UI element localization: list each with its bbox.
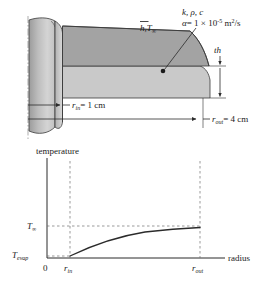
figure-container: h,T∞ k, ρ, c α= 1 × 10-5 m2/s th rin= 1 … bbox=[0, 0, 275, 285]
svg-text:rin= 1 cm: rin= 1 cm bbox=[72, 100, 105, 111]
y-tick-t-evap: Tevap bbox=[12, 250, 28, 261]
y-axis-title: temperature bbox=[36, 146, 79, 156]
temperature-curve bbox=[70, 228, 200, 257]
thickness-label: th bbox=[214, 45, 222, 55]
alpha-units: m bbox=[222, 18, 231, 28]
fin-upper-slab bbox=[63, 26, 210, 66]
tube-body bbox=[29, 18, 55, 133]
temperature-profile-plot: temperature radius T∞ Tevap 0 rin ro bbox=[12, 146, 250, 274]
x-tick-r-out: rout bbox=[192, 263, 204, 274]
y-tick-t-inf: T∞ bbox=[27, 221, 36, 232]
x-axis-title: radius bbox=[228, 253, 250, 263]
r-in-value: = 1 cm bbox=[80, 100, 105, 110]
origin-label: 0 bbox=[43, 263, 48, 273]
svg-text:h,T∞: h,T∞ bbox=[140, 23, 157, 34]
figure-svg: h,T∞ k, ρ, c α= 1 × 10-5 m2/s th rin= 1 … bbox=[0, 0, 275, 285]
convection-subscript: ∞ bbox=[152, 28, 157, 34]
fin-lower-slab bbox=[63, 66, 211, 98]
x-tick-r-in: rin bbox=[64, 263, 72, 274]
convection-label: h,T∞ bbox=[140, 22, 157, 35]
tube-wall-strip bbox=[55, 21, 63, 128]
material-properties-label: k, ρ, c α= 1 × 10-5 m2/s bbox=[182, 7, 241, 28]
annular-fin-diagram: h,T∞ k, ρ, c α= 1 × 10-5 m2/s th rin= 1 … bbox=[28, 7, 248, 140]
alpha-equals: = 1 × 10 bbox=[187, 18, 218, 28]
svg-text:α= 1 × 10-5 m2/s: α= 1 × 10-5 m2/s bbox=[182, 18, 241, 28]
svg-text:rout= 4 cm: rout= 4 cm bbox=[212, 114, 248, 125]
r-out-value: = 4 cm bbox=[223, 114, 248, 124]
thickness-dimension: th bbox=[209, 45, 226, 98]
k-rho-c-label: k, ρ, c bbox=[182, 7, 203, 17]
alpha-units-tail: /s bbox=[234, 18, 241, 28]
